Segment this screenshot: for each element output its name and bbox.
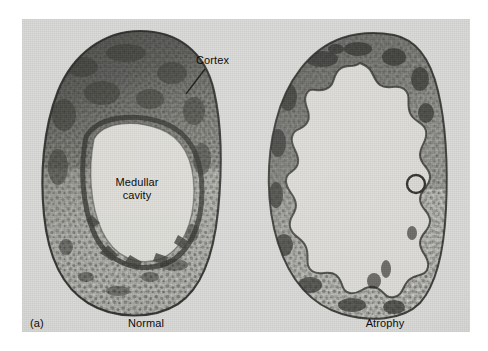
specimen-illustration	[22, 19, 470, 332]
atrophy-bone-specimen	[262, 19, 462, 332]
caption-normal: Normal	[106, 317, 186, 330]
caption-atrophy: Atrophy	[345, 317, 425, 330]
medullar-cavity-label-line1: Medullar	[97, 176, 177, 189]
medullar-cavity-label-line2: cavity	[97, 189, 177, 202]
vascular-canal-ring	[407, 175, 425, 193]
photomicrograph-plate	[22, 19, 470, 332]
figure-root: Cortex Medullar cavity (a) Normal Atroph…	[0, 0, 488, 351]
medullar-cavity-label: Medullar cavity	[97, 176, 177, 202]
cortex-label: Cortex	[196, 54, 229, 67]
panel-label: (a)	[30, 317, 44, 330]
